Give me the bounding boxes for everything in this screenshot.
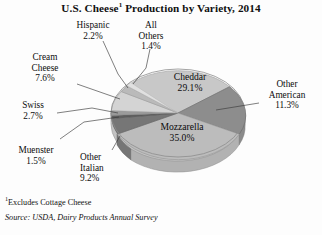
slice-label-cheddar: Cheddar 29.1% [150,71,230,93]
slice-label-cheddar-value: 29.1% [150,82,230,93]
slice-label-cheddar-name: Cheddar [150,71,230,82]
pie-svg [0,0,322,235]
pie-chart-graphic [0,0,322,235]
leader-line-swiss [57,108,118,113]
leader-line-hispanic [103,41,128,88]
leader-line-muenster [60,117,119,139]
slice-label-mozzarella-name: Mozzarella [136,121,228,132]
slice-label-mozzarella: Mozzarella 35.0% [136,121,228,143]
chart-canvas: U.S. Cheese1 Production by Variety, 2014 [0,0,322,235]
slice-label-mozzarella-value: 35.0% [136,132,228,143]
leader-line-cream-cheese [77,84,120,99]
